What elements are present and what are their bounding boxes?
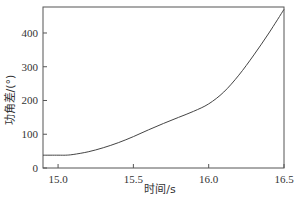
svg-text:15.5: 15.5 bbox=[124, 173, 144, 185]
svg-text:16.0: 16.0 bbox=[199, 173, 219, 185]
y-axis-label: 功角差/(°) bbox=[3, 75, 17, 126]
svg-text:100: 100 bbox=[22, 128, 39, 140]
svg-text:15.0: 15.0 bbox=[48, 173, 68, 185]
data-line bbox=[43, 9, 284, 155]
x-axis-label: 时间/s bbox=[144, 183, 176, 196]
svg-text:300: 300 bbox=[22, 61, 39, 73]
svg-text:16.5: 16.5 bbox=[274, 173, 294, 185]
plot-frame bbox=[43, 7, 284, 168]
svg-text:200: 200 bbox=[22, 94, 39, 106]
svg-text:0: 0 bbox=[33, 162, 39, 174]
line-chart: 0100200300400 15.015.516.016.5 时间/s 功角差/… bbox=[0, 0, 298, 201]
svg-text:400: 400 bbox=[22, 27, 39, 39]
x-axis-ticks: 15.015.516.016.5 bbox=[48, 164, 294, 185]
